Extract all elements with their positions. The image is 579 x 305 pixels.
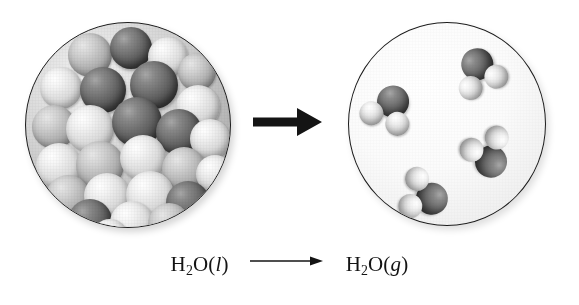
reactant-paren-close: ) (222, 252, 229, 276)
product-h: H (346, 252, 361, 276)
water-vapor-panel (348, 22, 546, 226)
water-molecule-2 (354, 77, 425, 144)
product-paren-open: ( (383, 252, 390, 276)
reactant-h: H (171, 252, 186, 276)
equation-caption: H2O(l) H2O(g) (0, 248, 579, 279)
water-molecule-1 (444, 36, 520, 109)
product-paren-close: ) (401, 252, 408, 276)
liquid-water-panel (25, 22, 231, 228)
phase-change-arrow (253, 104, 323, 140)
water-molecule-4 (391, 164, 452, 226)
reactant-o: O (193, 252, 208, 276)
reactant-subscript: 2 (186, 263, 193, 278)
reactant-formula: H2O(l) (171, 252, 229, 279)
equation-arrow-icon (250, 248, 324, 273)
product-subscript: 2 (361, 263, 368, 278)
liquid-atom (40, 67, 82, 109)
product-formula: H2O(g) (346, 252, 409, 279)
water-molecule-3 (448, 116, 524, 190)
product-o: O (368, 252, 383, 276)
product-state: g (391, 252, 402, 276)
figure-canvas: H2O(l) H2O(g) (0, 0, 579, 305)
